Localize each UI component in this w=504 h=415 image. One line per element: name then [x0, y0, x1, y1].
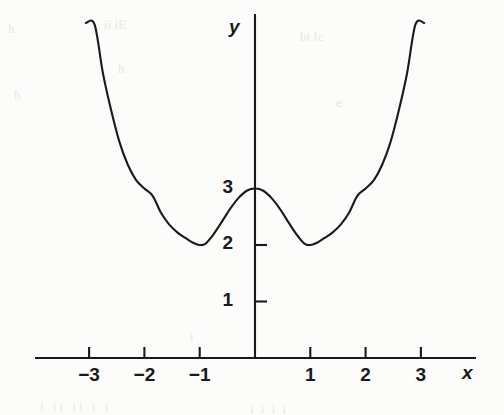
- figure-canvas: h ii iE h h bi Ic e i ii ii i i i i i i …: [0, 0, 504, 415]
- x-tick-label: −1: [175, 364, 225, 386]
- x-tick-label: −3: [64, 364, 114, 386]
- x-tick-label: 3: [396, 364, 446, 386]
- y-axis-group: [255, 14, 267, 358]
- function-plot: [0, 0, 504, 415]
- y-tick-label: 1: [193, 289, 233, 311]
- x-tick-label: −2: [119, 364, 169, 386]
- y-tick-label: 3: [193, 176, 233, 198]
- y-tick-label: 2: [193, 232, 233, 254]
- y-axis-label: y: [229, 16, 240, 38]
- x-tick-label: 1: [285, 364, 335, 386]
- x-axis-label: x: [462, 362, 473, 384]
- x-tick-label: 2: [341, 364, 391, 386]
- y-axis-ticks: [255, 245, 267, 302]
